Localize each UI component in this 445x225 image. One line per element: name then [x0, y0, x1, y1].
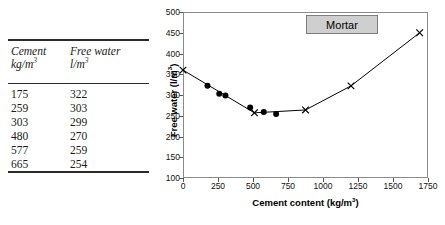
x-tick-mark: [323, 178, 324, 182]
legend-label: Mortar: [326, 19, 358, 31]
x-tick-mark: [358, 178, 359, 182]
cell-free-water: 270: [70, 130, 87, 142]
cell-cement: 259: [11, 102, 70, 114]
table-header-free-water-unit: l/m3: [70, 58, 120, 71]
x-axis-title: Cement content (kg/m3): [183, 197, 428, 208]
marker-filled-circle: [216, 91, 222, 97]
cell-cement: 665: [11, 158, 70, 170]
table-row: 480270: [11, 130, 146, 144]
series-group: [180, 29, 423, 117]
x-tick-mark: [428, 178, 429, 182]
x-tick-mark: [183, 178, 184, 182]
cell-cement: 577: [11, 144, 70, 156]
table-header-cement-unit: kg/m3: [11, 58, 46, 71]
x-tick-label: 1000: [303, 181, 343, 191]
x-tick-mark: [393, 178, 394, 182]
marker-filled-circle: [247, 104, 253, 110]
table-row: 303299: [11, 116, 146, 130]
table-row: 665254: [11, 158, 146, 172]
x-tick-mark: [253, 178, 254, 182]
legend-mortar: Mortar: [306, 15, 378, 34]
table-row: 577259: [11, 144, 146, 158]
marker-cross: [416, 29, 423, 36]
x-tick-label: 0: [163, 181, 203, 191]
cell-free-water: 299: [70, 116, 87, 128]
marker-cross: [348, 83, 355, 90]
x-tick-label: 1250: [338, 181, 378, 191]
marker-filled-circle: [273, 111, 279, 117]
table-body: 175322 259303 303299 480270 577259 66525…: [11, 88, 146, 172]
table-rule-header-separator: [8, 83, 149, 84]
table-rule-top: [8, 39, 149, 41]
table-header-free-water-name: Free water: [70, 45, 120, 57]
cell-free-water: 259: [70, 144, 87, 156]
table-header-cement-name: Cement: [11, 45, 46, 57]
data-table: Cement kg/m3 Free water l/m3 175322 2593…: [0, 0, 158, 225]
cell-cement: 303: [11, 116, 70, 128]
x-tick-label: 1750: [408, 181, 445, 191]
x-tick-label: 1500: [373, 181, 413, 191]
table-row: 259303: [11, 102, 146, 116]
cell-cement: 480: [11, 130, 70, 142]
table-row: 175322: [11, 88, 146, 102]
cell-cement: 175: [11, 88, 70, 100]
x-tick-label: 500: [233, 181, 273, 191]
series-line-mortar: [183, 33, 420, 113]
cell-free-water: 254: [70, 158, 87, 170]
x-tick-mark: [288, 178, 289, 182]
cell-free-water: 322: [70, 88, 87, 100]
x-tick-label: 750: [268, 181, 308, 191]
x-tick-label: 250: [198, 181, 238, 191]
chart: 100150200250300350400450500 025050075010…: [158, 0, 445, 225]
x-tick-mark: [218, 178, 219, 182]
marker-filled-circle: [222, 92, 228, 98]
y-axis-title: Free water (l/m3): [168, 36, 179, 166]
table-header-cement: Cement kg/m3: [11, 45, 46, 70]
marker-filled-circle: [205, 83, 211, 89]
chart-series-layer: [183, 12, 428, 178]
cell-free-water: 303: [70, 102, 87, 114]
marker-filled-circle: [261, 109, 267, 115]
table-header-free-water: Free water l/m3: [70, 45, 120, 70]
